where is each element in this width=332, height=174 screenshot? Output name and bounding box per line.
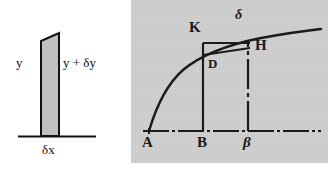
label-beta: β xyxy=(243,135,251,150)
differential-strip-drawing xyxy=(0,0,131,174)
label-delta: δ xyxy=(235,8,242,22)
newton-curve-plate-panel: K δ H D A B β xyxy=(131,0,328,163)
label-delta-x: δx xyxy=(42,143,55,156)
label-B: B xyxy=(197,135,207,150)
strip-shape xyxy=(41,33,59,136)
curve-path xyxy=(149,29,321,131)
label-y: y xyxy=(16,56,23,69)
label-K: K xyxy=(189,20,201,35)
figure-root: y y + δy δx K δ H D A B xyxy=(0,0,332,174)
differential-strip-panel: y y + δy δx xyxy=(0,0,131,174)
label-D: D xyxy=(208,57,217,70)
label-A: A xyxy=(142,135,153,150)
newton-curve-drawing xyxy=(131,0,328,163)
label-H: H xyxy=(255,38,267,53)
segment-D-H xyxy=(203,48,250,55)
label-y-plus-delta-y: y + δy xyxy=(63,56,96,69)
